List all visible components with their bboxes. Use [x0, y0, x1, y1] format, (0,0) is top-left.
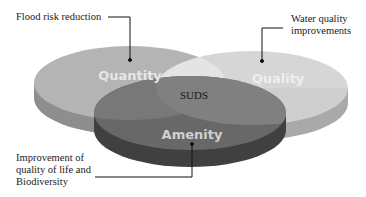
water-quality-line-2: improvements [291, 25, 351, 37]
center-label: SUDS [180, 89, 208, 101]
amenity-callout: Improvement of quality of life and Biodi… [16, 152, 91, 188]
flood-risk-callout: Flood risk reduction [16, 11, 101, 23]
amenity-line-2: quality of life and [16, 164, 91, 176]
water-quality-line-1: Water quality [291, 13, 351, 25]
quantity-label: Quantity [98, 68, 162, 83]
amenity-line-3: Biodiversity [16, 176, 91, 188]
amenity-label: Amenity [162, 127, 223, 142]
amenity-line-1: Improvement of [16, 152, 91, 164]
quality-label: Quality [252, 71, 305, 86]
water-quality-callout: Water quality improvements [291, 13, 351, 37]
